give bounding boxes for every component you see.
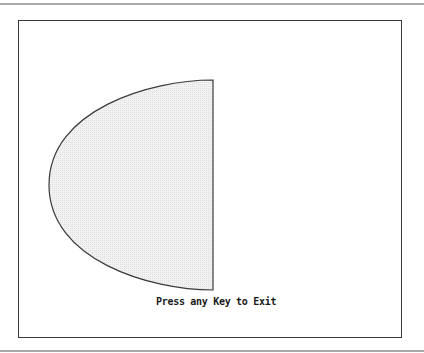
bottom-divider bbox=[0, 350, 424, 352]
exit-prompt-text: Press any Key to Exit bbox=[156, 296, 266, 307]
